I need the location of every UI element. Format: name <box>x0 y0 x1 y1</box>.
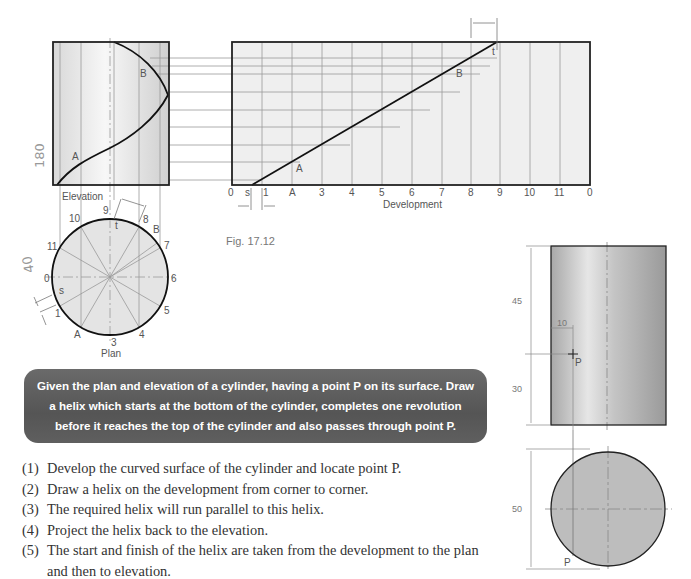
plan-label: Plan <box>101 348 121 359</box>
elevation-point-b: B <box>140 68 147 79</box>
step-item: (2) Draw a helix on the development from… <box>22 479 502 500</box>
development-label: Development <box>383 199 442 210</box>
dev-tick: 0 <box>587 187 593 198</box>
step-number: (5) <box>22 540 47 579</box>
elevation-view: A B Elevation 180 <box>32 38 232 202</box>
plan-number: 5 <box>164 305 170 316</box>
step-item: (4) Project the helix back to the elevat… <box>22 520 502 541</box>
dev-tick: A <box>289 187 296 198</box>
plan-number: 7 <box>164 240 170 251</box>
plan-number: 3 <box>111 337 117 348</box>
plan-point-t: t <box>115 220 118 231</box>
elevation-label: Elevation <box>62 191 103 202</box>
problem-statement: Given the plan and elevation of a cylind… <box>24 369 487 443</box>
dev-tick: 0 <box>228 187 234 198</box>
plan-number: 10 <box>69 213 81 224</box>
plan-view: 0 1 A 3 4 5 6 7 B 8 9 10 11 s t Plan 40 <box>19 199 177 359</box>
step-item: (5) The start and finish of the helix ar… <box>22 540 502 579</box>
given-plan: 50 P <box>512 430 672 572</box>
step-text: The required helix will run parallel to … <box>47 499 324 520</box>
dev-tick: 6 <box>409 187 415 198</box>
dim-offset: 10 <box>557 318 567 328</box>
step-list: (1) Develop the curved surface of the cy… <box>22 458 502 579</box>
step-number: (3) <box>22 499 47 520</box>
point-p-elevation: P <box>575 357 582 368</box>
dev-tick: 1 <box>263 187 269 198</box>
figure-caption: Fig. 17.12 <box>226 235 275 247</box>
dev-tick: 5 <box>379 187 385 198</box>
dim-height-top: 45 <box>512 296 522 306</box>
dev-tick: 4 <box>349 187 355 198</box>
step-text: Draw a helix on the development from cor… <box>47 479 368 500</box>
plan-number: 4 <box>139 329 145 340</box>
elevation-point-a: A <box>72 151 79 162</box>
plan-number: B <box>153 224 160 235</box>
dev-tick: 3 <box>319 187 325 198</box>
handwritten-note-plan: 40 <box>19 255 37 274</box>
dim-height-bottom: 30 <box>512 384 522 394</box>
given-elevation: 45 30 10 P <box>512 242 666 430</box>
dim-diameter: 50 <box>512 504 522 514</box>
dev-tick: 10 <box>524 187 536 198</box>
step-text: Project the helix back to the elevation. <box>47 520 268 541</box>
problem-text: Given the plan and elevation of a cylind… <box>34 376 477 436</box>
plan-number: 11 <box>47 241 58 252</box>
plan-number: 6 <box>171 273 177 284</box>
development-view: t B A 0 s 1 A 3 4 5 6 7 8 9 10 11 0 Deve… <box>228 18 593 210</box>
step-number: (1) <box>22 458 47 479</box>
handwritten-note-elevation: 180 <box>32 143 47 168</box>
plan-number: 1 <box>55 308 61 319</box>
development-point-t: t <box>492 46 495 57</box>
dev-tick: 7 <box>439 187 445 198</box>
step-text: The start and finish of the helix are ta… <box>47 540 502 579</box>
step-number: (4) <box>22 520 47 541</box>
development-point-a: A <box>296 163 303 174</box>
plan-number: 0 <box>44 273 50 284</box>
point-p-plan: P <box>564 557 571 568</box>
dev-tick: 9 <box>497 187 503 198</box>
plan-number: A <box>74 329 81 340</box>
step-number: (2) <box>22 479 47 500</box>
plan-point-s: s <box>59 285 64 296</box>
plan-number: 9 <box>103 205 109 216</box>
development-point-b: B <box>456 68 463 79</box>
dev-tick: 11 <box>554 187 565 198</box>
dev-tick: 8 <box>468 187 474 198</box>
step-text: Develop the curved surface of the cylind… <box>47 458 401 479</box>
dev-tick: s <box>245 187 250 198</box>
step-item: (3) The required helix will run parallel… <box>22 499 502 520</box>
plan-number: 8 <box>143 214 149 225</box>
step-item: (1) Develop the curved surface of the cy… <box>22 458 502 479</box>
